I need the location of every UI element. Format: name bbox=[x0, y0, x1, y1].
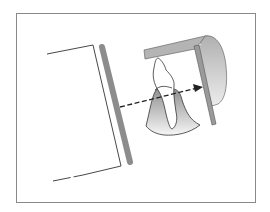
dental-radiography-diagram bbox=[0, 0, 270, 212]
tube-cone bbox=[47, 45, 121, 181]
arrowhead-icon bbox=[193, 84, 203, 92]
